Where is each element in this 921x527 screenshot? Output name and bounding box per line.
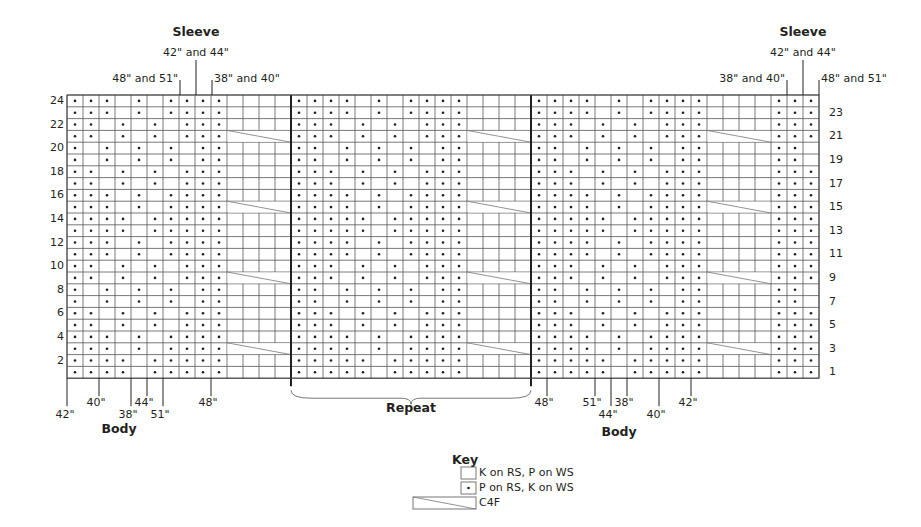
row-number-right: 11 bbox=[829, 247, 843, 260]
size-label: 40" bbox=[646, 408, 665, 421]
size-label: 42" bbox=[55, 408, 74, 421]
size-label: 42" bbox=[678, 396, 697, 409]
row-number-left: 14 bbox=[46, 212, 64, 225]
size-label: 48" and 51" bbox=[821, 72, 887, 85]
row-number-right: 21 bbox=[829, 129, 843, 142]
row-number-right: 5 bbox=[829, 318, 836, 331]
size-label: 38" and 40" bbox=[719, 72, 785, 85]
size-label: 38" bbox=[614, 396, 633, 409]
row-number-right: 17 bbox=[829, 177, 843, 190]
row-number-right: 15 bbox=[829, 200, 843, 213]
row-number-left: 22 bbox=[46, 118, 64, 131]
key-title: Key bbox=[452, 452, 478, 467]
size-label: 38" bbox=[118, 408, 137, 421]
row-number-left: 18 bbox=[46, 165, 64, 178]
row-number-right: 1 bbox=[829, 365, 836, 378]
size-label: 42" and 44" bbox=[770, 46, 836, 59]
repeat-label: Repeat bbox=[386, 400, 436, 415]
size-label: 42" and 44" bbox=[163, 46, 229, 59]
size-label: 38" and 40" bbox=[214, 72, 280, 85]
key-item-cable-c4f: C4F bbox=[479, 496, 500, 509]
row-number-right: 19 bbox=[829, 153, 843, 166]
row-number-left: 2 bbox=[46, 354, 64, 367]
key-item-dot-square: P on RS, K on WS bbox=[479, 481, 574, 494]
size-label: 48" bbox=[534, 396, 553, 409]
row-number-left: 20 bbox=[46, 141, 64, 154]
key-item-empty-square: K on RS, P on WS bbox=[479, 466, 574, 479]
size-label: 44" bbox=[598, 408, 617, 421]
row-number-left: 8 bbox=[46, 283, 64, 296]
body-title-left: Body bbox=[101, 421, 136, 436]
row-number-left: 12 bbox=[46, 236, 64, 249]
row-number-left: 16 bbox=[46, 188, 64, 201]
row-number-right: 7 bbox=[829, 295, 836, 308]
row-number-left: 6 bbox=[46, 306, 64, 319]
size-label: 48" bbox=[198, 396, 217, 409]
sleeve-title-right: Sleeve bbox=[780, 24, 827, 39]
row-number-left: 10 bbox=[46, 259, 64, 272]
row-number-right: 13 bbox=[829, 224, 843, 237]
sleeve-title-left: Sleeve bbox=[173, 24, 220, 39]
row-number-right: 9 bbox=[829, 271, 836, 284]
row-number-right: 23 bbox=[829, 106, 843, 119]
row-number-left: 4 bbox=[46, 330, 64, 343]
size-label: 51" bbox=[150, 408, 169, 421]
row-number-left: 24 bbox=[46, 94, 64, 107]
body-title-right: Body bbox=[601, 424, 636, 439]
row-number-right: 3 bbox=[829, 342, 836, 355]
size-label: 48" and 51" bbox=[112, 72, 178, 85]
size-label: 40" bbox=[86, 396, 105, 409]
